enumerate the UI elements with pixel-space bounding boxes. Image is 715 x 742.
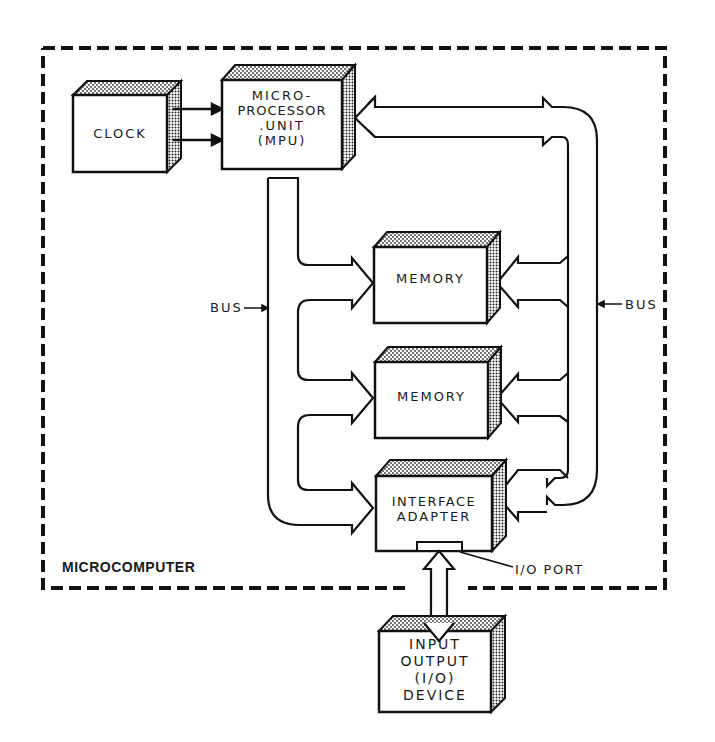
memory-2-label: MEMORY bbox=[375, 389, 488, 404]
interface-label: INTERFACE ADAPTER bbox=[376, 494, 492, 524]
mpu-label-line-4: (MPU) bbox=[222, 133, 342, 148]
io-device-label-line-3: (I/O) bbox=[379, 670, 491, 687]
mpu-label-line-2: PROCESSOR bbox=[222, 103, 342, 118]
io-port-leader bbox=[460, 552, 513, 567]
io-device-label: INPUT OUTPUT (I/O) DEVICE bbox=[379, 636, 491, 704]
mpu-label: MICRO- PROCESSOR .UNIT (MPU) bbox=[222, 88, 342, 148]
bus-right-label: BUS bbox=[625, 297, 665, 312]
mpu-label-line-1: MICRO- bbox=[222, 88, 342, 103]
io-device-label-line-2: OUTPUT bbox=[379, 653, 491, 670]
interface-label-line-2: ADAPTER bbox=[376, 509, 492, 524]
microcomputer-diagram bbox=[0, 0, 715, 742]
bus-left-label: BUS bbox=[210, 300, 246, 315]
mpu-label-line-3: .UNIT bbox=[222, 118, 342, 133]
memory-1-label: MEMORY bbox=[374, 271, 487, 286]
microcomputer-label: MICROCOMPUTER bbox=[62, 560, 262, 575]
left-bus bbox=[268, 178, 373, 533]
io-device-label-line-4: DEVICE bbox=[379, 687, 491, 704]
interface-label-line-1: INTERFACE bbox=[376, 494, 492, 509]
io-device-label-line-1: INPUT bbox=[379, 636, 491, 653]
io-port-label: I/O PORT bbox=[515, 562, 605, 577]
right-bus-branches bbox=[497, 256, 568, 520]
clock-label: CLOCK bbox=[73, 126, 167, 141]
